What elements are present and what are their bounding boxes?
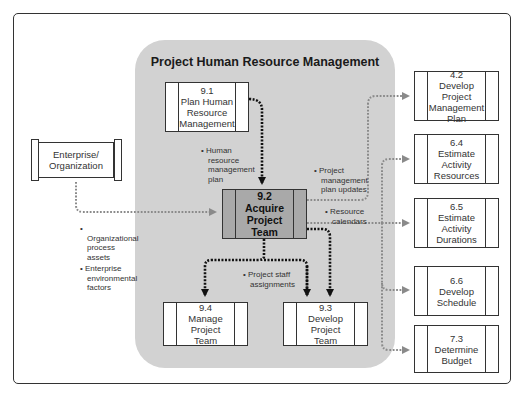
process-9-2-focus[interactable]: 9.2 Acquire Project Team (222, 189, 307, 239)
process-label: Determine Budget (415, 344, 498, 366)
flow-note-resource-calendars: • Resource calendars (325, 207, 367, 226)
process-number: 6.6 (436, 275, 477, 286)
process-6-5[interactable]: 6.5 Estimate Activity Durations (414, 198, 499, 248)
flow-note-pm-updates: • Project management plan updates (314, 166, 368, 195)
process-number: 9.3 (305, 302, 346, 313)
process-label: Estimate Activity Resources (415, 148, 498, 181)
flow-item: • Organizational process assets (80, 224, 134, 262)
enterprise-organization-box[interactable]: Enterprise/ Organization (38, 142, 114, 178)
flow-item: • Project management plan updates (314, 166, 368, 195)
process-9-4[interactable]: 9.4 Manage Project Team (163, 302, 248, 346)
arrow-to-73 (382, 283, 408, 350)
process-number: 9.1 (186, 85, 227, 96)
process-label: Develop Project Team (284, 313, 367, 346)
process-number: 9.2 (243, 190, 286, 202)
flow-item: • Enterprise environmental factors (80, 264, 134, 293)
process-number: 9.4 (185, 302, 226, 313)
process-number: 4.2 (436, 69, 477, 80)
arrow-92-to-93b (307, 229, 330, 295)
flow-note-staff-assignments: • Project staff assignments (243, 270, 301, 289)
process-number: 6.4 (436, 137, 477, 148)
process-label: Acquire Project Team (223, 202, 306, 238)
process-6-4[interactable]: 6.4 Estimate Activity Resources (414, 134, 499, 184)
process-label: Develop Project Management Plan (415, 80, 498, 124)
flow-item: • Human resource management plan (201, 146, 261, 184)
process-label: Manage Project Team (164, 313, 247, 346)
flow-note-enterprise-inputs: • Organizational process assets • Enterp… (80, 224, 134, 293)
process-6-6[interactable]: 6.6 Develop Schedule (414, 266, 499, 316)
flow-note-hr-plan: • Human resource management plan (201, 146, 261, 184)
arrow-enterprise-to-92 (76, 182, 215, 212)
flow-item: • Resource calendars (325, 207, 367, 226)
process-9-3[interactable]: 9.3 Develop Project Team (283, 302, 368, 346)
enterprise-label: Enterprise/ Organization (39, 149, 113, 171)
arrow-to-66 (382, 223, 408, 290)
process-7-3[interactable]: 7.3 Determine Budget (414, 325, 499, 373)
flow-item: • Project staff assignments (243, 270, 301, 289)
process-number: 6.5 (436, 201, 477, 212)
arrow-to-64 (382, 159, 408, 223)
process-4-2[interactable]: 4.2 Develop Project Management Plan (414, 71, 499, 121)
process-number: 7.3 (436, 333, 477, 344)
enterprise-right-tab (114, 139, 122, 181)
process-label: Plan Human Resource Management (165, 96, 248, 129)
process-9-1[interactable]: 9.1 Plan Human Resource Management (165, 82, 249, 132)
process-label: Estimate Activity Durations (415, 212, 498, 245)
process-label: Develop Schedule (415, 286, 498, 308)
